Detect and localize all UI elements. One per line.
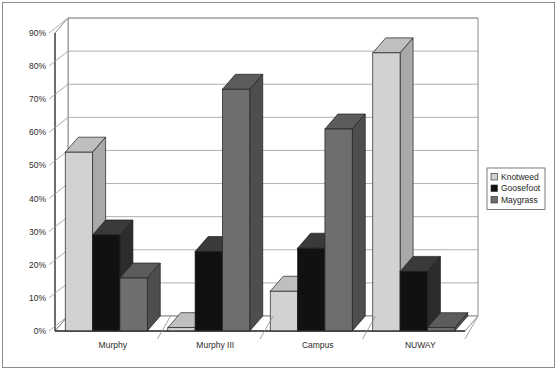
grouped-bar-chart-3d: 0%10%20%30%40%50%60%70%80%90% MurphyMurp… bbox=[0, 0, 557, 370]
x-category-label: Murphy bbox=[99, 340, 128, 350]
bar-front-face bbox=[270, 291, 297, 331]
bar-front-face bbox=[325, 129, 352, 331]
legend-label: Goosefoot bbox=[501, 183, 541, 193]
legend-swatch bbox=[491, 185, 498, 192]
bar-front-face bbox=[373, 53, 400, 331]
bar-front-face bbox=[222, 89, 249, 331]
y-tick-label: 50% bbox=[29, 160, 46, 170]
bar-front-face bbox=[120, 278, 147, 331]
bar-front-face bbox=[93, 235, 120, 331]
chart-legend: KnotweedGoosefootMaygrass bbox=[487, 168, 545, 210]
legend-label: Knotweed bbox=[501, 172, 539, 182]
bar-maygrass-murphy[interactable] bbox=[120, 263, 160, 331]
y-tick-label: 30% bbox=[29, 227, 46, 237]
bar-maygrass-murphy-iii[interactable] bbox=[222, 74, 262, 331]
bar-front-face bbox=[65, 152, 92, 331]
y-tick-label: 40% bbox=[29, 194, 46, 204]
y-tick-label: 10% bbox=[29, 293, 46, 303]
y-tick-label: 60% bbox=[29, 127, 46, 137]
bar-side-face bbox=[352, 114, 365, 331]
legend-label: Maygrass bbox=[501, 195, 538, 205]
chart-container: 0%10%20%30%40%50%60%70%80%90% MurphyMurp… bbox=[0, 0, 557, 370]
x-category-label: Campus bbox=[302, 340, 334, 350]
y-tick-label: 20% bbox=[29, 260, 46, 270]
bar-front-face bbox=[298, 248, 325, 331]
x-category-label: NUWAY bbox=[405, 340, 436, 350]
y-tick-label: 80% bbox=[29, 61, 46, 71]
y-tick-label: 0% bbox=[34, 326, 47, 336]
x-category-label: Murphy III bbox=[196, 340, 234, 350]
bar-front-face bbox=[195, 252, 222, 331]
bar-maygrass-campus[interactable] bbox=[325, 114, 365, 331]
legend-swatch bbox=[491, 197, 498, 204]
legend-swatch bbox=[491, 174, 498, 181]
bar-front-face bbox=[400, 271, 427, 331]
bar-side-face bbox=[250, 74, 263, 331]
y-tick-label: 70% bbox=[29, 94, 46, 104]
y-tick-label: 90% bbox=[29, 28, 46, 38]
